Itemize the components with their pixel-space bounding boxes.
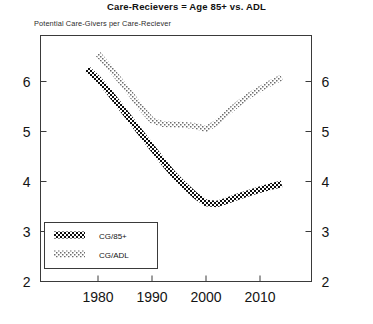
chart-container: Care-Recievers = Age 85+ vs. ADL Potenti… [0,0,373,324]
y-tick-label-right: 6 [322,74,330,90]
legend-label-cg-adl: CG/ADL [99,251,129,260]
y-tick-label-right: 4 [322,174,330,190]
y-tick-label-left: 6 [23,74,31,90]
y-axis-left: 23456 [23,74,47,290]
x-axis: 1980199020002010 [82,276,275,305]
series-line-cg-85 [87,69,281,204]
legend-swatch-cg-adl [54,251,85,258]
legend-box [45,223,158,269]
y-tick-label-right: 3 [322,224,330,240]
data-series-layer [87,54,281,204]
chart-plot-area: 23456 23456 1980199020002010 CG/85+CG/AD… [0,0,373,324]
x-tick-label: 2000 [190,289,221,305]
x-tick-label: 2010 [244,289,275,305]
x-tick-label: 1980 [82,289,113,305]
y-tick-label-left: 4 [23,174,31,190]
legend-swatch-cg-85 [54,232,85,239]
legend-label-cg-85: CG/85+ [99,232,127,241]
x-tick-label: 1990 [136,289,167,305]
y-tick-label-left: 2 [23,274,31,290]
y-tick-label-right: 2 [322,274,330,290]
y-tick-label-left: 5 [23,124,31,140]
y-tick-label-right: 5 [322,124,330,140]
y-tick-label-left: 3 [23,224,31,240]
y-axis-right: 23456 [306,74,330,290]
chart-legend: CG/85+CG/ADL [45,223,158,269]
